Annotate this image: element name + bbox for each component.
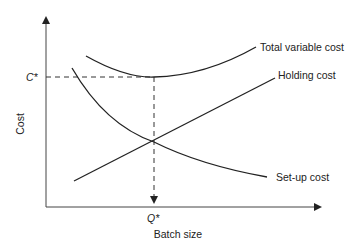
x-axis-label: Batch size: [154, 228, 203, 240]
set-up-cost-label: Set-up cost: [276, 171, 329, 183]
y-axis-label: Cost: [14, 113, 26, 135]
batch-size-cost-diagram: Total variable cost Holding cost Set-up …: [0, 0, 354, 252]
holding-cost-label: Holding cost: [278, 69, 336, 81]
holding-cost-line: [74, 78, 275, 181]
c-star-label: C*: [26, 71, 39, 83]
set-up-cost-curve: [72, 68, 267, 177]
total-variable-cost-curve: [86, 47, 256, 77]
q-star-label: Q*: [147, 212, 160, 224]
total-variable-cost-label: Total variable cost: [260, 41, 344, 53]
